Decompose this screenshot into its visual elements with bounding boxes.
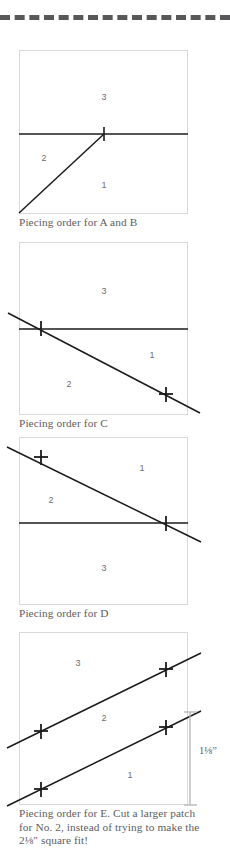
dimension-label: 1⅛” bbox=[199, 745, 217, 756]
figure-panel-a-b: 3 2 1 Piecing order for A and B bbox=[0, 0, 230, 232]
figure-caption-e: Piecing order for E. Cut a larger patch … bbox=[19, 807, 209, 848]
figure-box-d bbox=[19, 437, 188, 605]
piece-number-label: 2 bbox=[41, 153, 46, 163]
figure-panel-e: 3 2 1 1⅛” Piecing order for E. Cut a lar… bbox=[0, 620, 230, 854]
piece-number-label: 3 bbox=[101, 92, 106, 102]
piece-number-label: 3 bbox=[75, 658, 80, 668]
piece-number-label: 3 bbox=[101, 563, 106, 573]
piece-number-label: 1 bbox=[149, 350, 154, 360]
figure-caption-d: Piecing order for D bbox=[19, 607, 224, 621]
figure-caption-a-b: Piecing order for A and B bbox=[19, 216, 224, 230]
piece-number-label: 2 bbox=[66, 379, 71, 389]
figure-box-c bbox=[19, 242, 188, 415]
figure-panel-d: 1 2 3 Piecing order for D bbox=[0, 428, 230, 624]
figure-panel-c: 3 1 2 Piecing order for C bbox=[0, 232, 230, 434]
diagram-page: 3 2 1 Piecing order for A and B 3 1 2 Pi… bbox=[0, 0, 230, 854]
piece-number-label: 2 bbox=[48, 495, 53, 505]
piece-number-label: 1 bbox=[139, 463, 144, 473]
piece-number-label: 1 bbox=[127, 770, 132, 780]
piece-number-label: 1 bbox=[101, 180, 106, 190]
piece-number-label: 2 bbox=[101, 713, 106, 723]
piece-number-label: 3 bbox=[101, 286, 106, 296]
